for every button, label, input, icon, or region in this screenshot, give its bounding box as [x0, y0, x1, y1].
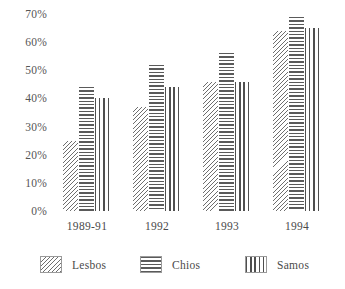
bar-chios [219, 53, 234, 211]
x-axis-tick-label: 1989-91 [67, 220, 107, 232]
bar-group [133, 14, 181, 211]
x-axis-tick-label: 1992 [145, 220, 169, 232]
x-axis: 1989-91199219931994 [55, 220, 337, 242]
y-axis: 70%60%50%40%30%20%10%0% [0, 0, 55, 230]
plot-area [55, 14, 337, 211]
bar-samos [305, 28, 320, 211]
legend-swatch-chios [140, 256, 162, 273]
y-axis-tick-label: 20% [25, 149, 47, 161]
legend-entry-samos: Samos [245, 256, 309, 273]
legend-swatch-lesbos [40, 256, 62, 273]
bar-chios [289, 17, 304, 211]
y-axis-tick-label: 50% [25, 64, 47, 76]
bar-lesbos [273, 31, 288, 211]
legend-label: Lesbos [72, 259, 106, 271]
bar-lesbos [203, 82, 218, 211]
bar-lesbos [63, 141, 78, 211]
y-axis-tick-label: 60% [25, 36, 47, 48]
bar-samos [95, 98, 110, 211]
bar-group [203, 14, 251, 211]
bar-group [63, 14, 111, 211]
bar-samos [165, 87, 180, 211]
legend-entry-chios: Chios [140, 256, 200, 273]
y-axis-tick-label: 0% [31, 205, 47, 217]
x-axis-tick-label: 1994 [285, 220, 309, 232]
x-axis-tick-label: 1993 [215, 220, 239, 232]
bar-chios [79, 87, 94, 211]
bar-chart: 70%60%50%40%30%20%10%0% 1989-91199219931… [0, 0, 345, 289]
y-axis-tick-label: 40% [25, 92, 47, 104]
chart-legend: LesbosChiosSamos [0, 256, 345, 286]
legend-entry-lesbos: Lesbos [40, 256, 106, 273]
y-axis-tick-label: 30% [25, 121, 47, 133]
legend-label: Samos [277, 259, 309, 271]
bar-samos [235, 82, 250, 211]
legend-label: Chios [172, 259, 200, 271]
legend-swatch-samos [245, 256, 267, 273]
bar-lesbos [133, 107, 148, 211]
bar-group [273, 14, 321, 211]
y-axis-tick-label: 10% [25, 177, 47, 189]
bar-chios [149, 65, 164, 211]
y-axis-tick-label: 70% [25, 8, 47, 20]
